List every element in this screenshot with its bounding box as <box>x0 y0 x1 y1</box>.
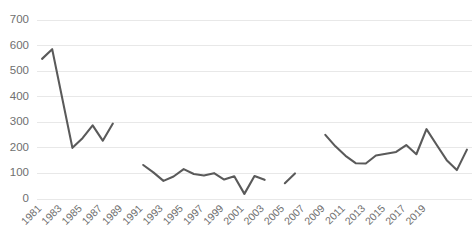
x-axis-tick-label: 1989 <box>99 202 124 227</box>
x-axis-tick-label: 2007 <box>281 202 306 227</box>
x-axis-tick-label: 2013 <box>342 202 367 227</box>
y-axis-tick-label: 700 <box>10 13 29 25</box>
x-axis-tick-label: 1993 <box>140 202 165 227</box>
x-axis-tick-labels: 1981198319851987198919911993199519971999… <box>18 202 428 227</box>
x-axis-tick-label: 2005 <box>261 202 286 227</box>
x-axis-tick-label: 1991 <box>120 202 145 227</box>
x-axis-tick-label: 1987 <box>79 202 104 227</box>
x-axis-tick-label: 2015 <box>362 202 387 227</box>
y-axis-tick-label: 300 <box>10 115 29 127</box>
x-axis-tick-label: 1995 <box>160 202 185 227</box>
series-line-segment <box>143 165 264 194</box>
x-axis-tick-label: 1997 <box>180 202 205 227</box>
x-axis-tick-label: 1983 <box>39 202 64 227</box>
x-axis-tick-label: 1999 <box>201 202 226 227</box>
y-axis-tick-labels: 0100200300400500600700 <box>10 13 29 204</box>
series-line-segment <box>42 49 113 148</box>
x-axis-tick-label: 2017 <box>383 202 408 227</box>
series-line-segment <box>285 173 295 183</box>
y-axis-tick-label: 100 <box>10 166 29 178</box>
y-axis-tick-label: 400 <box>10 90 29 102</box>
x-axis-tick-label: 2003 <box>241 202 266 227</box>
chart-canvas: 0100200300400500600700 19811983198519871… <box>0 0 474 246</box>
y-axis-tick-label: 0 <box>23 192 29 204</box>
gridlines <box>37 20 472 199</box>
x-axis-tick-label: 2011 <box>322 202 347 227</box>
x-axis-tick-label: 1985 <box>59 202 84 227</box>
series-line-segment <box>325 129 467 170</box>
line-chart: 0100200300400500600700 19811983198519871… <box>0 0 474 246</box>
y-axis-tick-label: 500 <box>10 64 29 76</box>
x-axis-tick-label: 2001 <box>221 202 246 227</box>
y-axis-tick-label: 200 <box>10 141 29 153</box>
x-axis-tick-label: 2009 <box>302 202 327 227</box>
x-axis-tick-label: 2019 <box>403 202 428 227</box>
y-axis-tick-label: 600 <box>10 39 29 51</box>
x-axis-tick-label: 1981 <box>18 202 43 227</box>
